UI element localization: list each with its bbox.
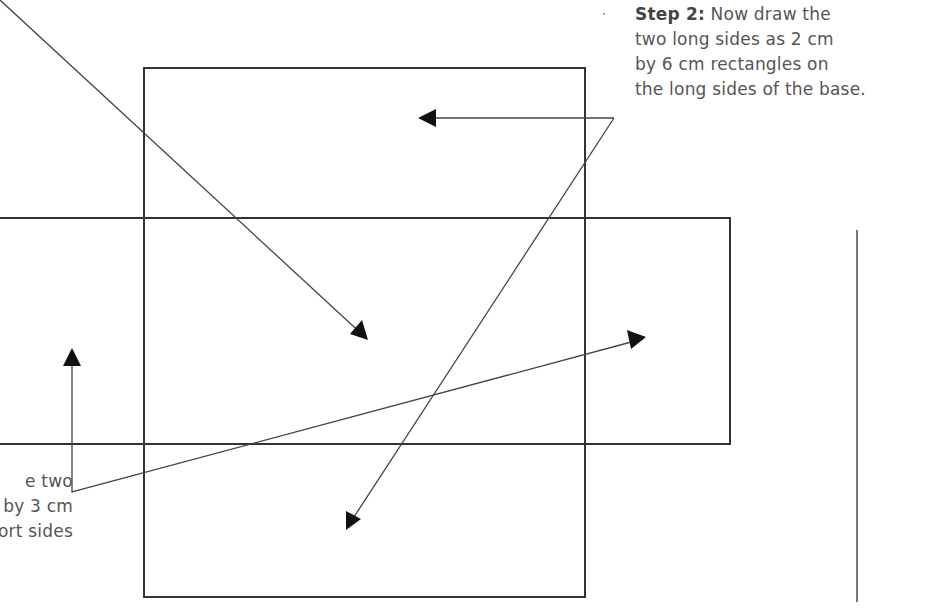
step2-line-2: two long sides as 2 cm xyxy=(635,27,866,52)
step2-line-1: Step 2: Now draw the xyxy=(635,2,866,27)
step1-instructions-partial: e two by 3 cm ort sides xyxy=(0,469,73,544)
arrowhead-icon xyxy=(346,511,361,530)
arrowhead-icon xyxy=(63,348,81,366)
arrow-bottom-side xyxy=(352,118,614,520)
step2-heading: Step 2: xyxy=(635,4,705,24)
step1-line-3: ort sides xyxy=(0,519,73,544)
step1-line-1: e two xyxy=(0,469,73,494)
arrowhead-icon xyxy=(350,320,368,340)
stray-dot xyxy=(603,13,605,15)
step1-line-2: by 3 cm xyxy=(0,494,73,519)
arrow-base-center xyxy=(0,0,366,338)
step2-line-4: the long sides of the base. xyxy=(635,77,866,102)
step2-instructions: Step 2: Now draw the two long sides as 2… xyxy=(635,2,866,102)
step2-line-3: by 6 cm rectangles on xyxy=(635,52,866,77)
arrow-left-side xyxy=(72,341,635,492)
arrowhead-icon xyxy=(418,109,436,127)
arrowhead-icon xyxy=(627,330,646,349)
